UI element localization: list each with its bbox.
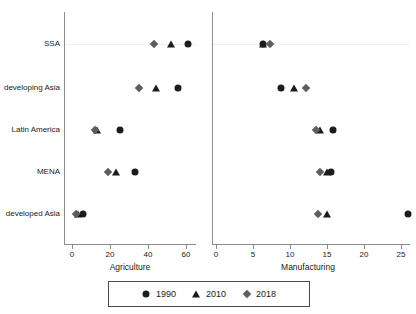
data-point-diamond [301,84,309,92]
data-point-diamond [134,84,142,92]
legend-entry-2018: 2018 [242,289,276,299]
x-tick-label-60: 60 [182,250,191,260]
x-axis-title-manufacturing: Manufacturing [281,262,335,272]
triangle-marker-icon [192,290,201,299]
y-axis-line-manufacturing [212,12,213,244]
x-axis-title-agriculture: Agriculture [110,262,151,272]
x-tick-20 [110,245,111,249]
data-point-circle [405,211,412,218]
category-label-developing-asia: developing Asia [4,83,60,93]
x-tick-0 [72,245,73,249]
data-point-triangle [290,85,298,92]
data-point-circle [278,85,285,92]
gridline-ssa-mfg [213,44,410,45]
x-tick-label-10-mfg: 10 [286,250,295,260]
x-tick-15-mfg [327,245,328,249]
x-tick-label-0-mfg: 0 [214,250,218,260]
y-axis-line-agriculture [64,12,65,244]
x-tick-60 [186,245,187,249]
data-point-circle [131,169,138,176]
data-point-diamond [266,40,274,48]
x-tick-label-5-mfg: 5 [251,250,255,260]
data-point-circle [329,127,336,134]
data-point-triangle [167,41,175,48]
data-point-diamond [314,210,322,218]
panel-manufacturing: 0 5 10 15 20 25 Manufacturing [212,12,410,244]
data-point-triangle [323,211,331,218]
x-tick-10-mfg [290,245,291,249]
x-tick-25-mfg [401,245,402,249]
category-label-mena: MENA [37,167,60,177]
category-label-latin-america: Latin America [12,125,60,135]
x-axis-line-agriculture [64,244,196,245]
data-point-circle [175,85,182,92]
dot-plot-figure: SSA developing Asia Latin America MENA d… [0,0,416,314]
legend-entry-1990: 1990 [142,289,176,299]
circle-marker-icon [142,290,151,299]
panel-agriculture: 0 20 40 60 Agriculture [64,12,196,244]
x-tick-20-mfg [364,245,365,249]
data-point-triangle [112,169,120,176]
x-tick-5-mfg [253,245,254,249]
data-point-circle [184,41,191,48]
x-tick-0-mfg [216,245,217,249]
diamond-marker-icon [242,290,251,299]
x-tick-label-15-mfg: 15 [323,250,332,260]
x-tick-label-25-mfg: 25 [397,250,406,260]
x-tick-label-0: 0 [70,250,74,260]
x-tick-label-20: 20 [106,250,115,260]
legend-label-2010: 2010 [206,289,226,299]
legend-entry-2010: 2010 [192,289,226,299]
category-label-developed-asia: developed Asia [6,209,60,219]
gridline-ssa [65,44,196,45]
data-point-triangle [152,85,160,92]
data-point-diamond [149,40,157,48]
data-point-circle [116,127,123,134]
x-tick-40 [148,245,149,249]
legend-label-1990: 1990 [156,289,176,299]
x-tick-label-20-mfg: 20 [360,250,369,260]
legend: 1990 2010 2018 [108,281,310,307]
category-label-ssa: SSA [44,39,60,49]
x-tick-label-40: 40 [144,250,153,260]
legend-label-2018: 2018 [256,289,276,299]
x-axis-line-manufacturing [212,244,410,245]
